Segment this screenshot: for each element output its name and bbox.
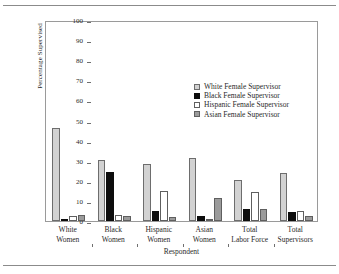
y-axis-tick-label: 70 (76, 77, 83, 85)
y-axis-tick-mark (87, 82, 91, 83)
bar (214, 198, 221, 221)
legend-item: Hispanic Female Supervisor (194, 100, 289, 109)
y-axis-tick-mark (87, 203, 91, 204)
y-axis-tick-mark (87, 102, 91, 103)
legend-item-label: White Female Supervisor (204, 82, 281, 91)
bar (152, 211, 159, 221)
bar (189, 158, 196, 221)
bar (280, 173, 287, 221)
y-axis-tick-mark (87, 42, 91, 43)
bar (123, 216, 130, 221)
bar (160, 191, 167, 221)
bar (243, 209, 250, 221)
y-axis-tick-mark (87, 223, 91, 224)
figure-top-rule (3, 5, 336, 6)
bar (143, 164, 150, 221)
bar (260, 209, 267, 221)
legend-item-label: Black Female Supervisor (204, 91, 280, 100)
y-axis-tick-mark (87, 163, 91, 164)
figure: Percentage Supervised 010203040506070809… (0, 0, 339, 274)
legend-swatch-icon (194, 102, 200, 108)
y-axis-tick-label: 90 (76, 37, 83, 45)
y-axis-title: Percentage Supervised (36, 0, 44, 126)
y-axis-tick-mark (87, 22, 91, 23)
x-axis-title: Respondent (45, 247, 318, 256)
y-axis-tick-label: 80 (76, 57, 83, 65)
chart-legend: White Female SupervisorBlack Female Supe… (194, 82, 289, 119)
y-axis-tick-mark (87, 183, 91, 184)
x-axis-group-label-line1: Total (288, 225, 303, 234)
bar (169, 217, 176, 221)
y-axis-tick-label: 50 (76, 118, 83, 126)
legend-item: Asian Female Supervisor (194, 110, 289, 119)
legend-swatch-icon (194, 84, 200, 90)
bar (197, 216, 204, 221)
bar (288, 212, 295, 221)
legend-item: White Female Supervisor (194, 82, 289, 91)
y-axis-tick-mark (87, 123, 91, 124)
legend-swatch-icon (194, 93, 200, 99)
bar (78, 215, 85, 221)
bar (305, 216, 312, 221)
x-axis-group-label-line2: Supervisors (255, 235, 335, 245)
x-axis-group-label: TotalSupervisors (255, 225, 335, 244)
y-axis-tick-label: 60 (76, 97, 83, 105)
legend-item-label: Asian Female Supervisor (204, 110, 280, 119)
y-axis-tick-mark (87, 143, 91, 144)
y-axis-tick-label: 100 (73, 17, 84, 25)
bar (206, 219, 213, 221)
plot-frame: 0102030405060708090100 White Female Supe… (45, 21, 318, 222)
legend-swatch-icon (194, 111, 200, 117)
bar (297, 211, 304, 221)
bar (106, 172, 113, 221)
bar (69, 216, 76, 221)
legend-item: Black Female Supervisor (194, 91, 289, 100)
bar (61, 219, 68, 221)
y-axis-tick-label: 40 (76, 138, 83, 146)
bar (251, 192, 258, 221)
y-axis-tick-label: 10 (76, 198, 83, 206)
y-axis-tick-label: 20 (76, 178, 83, 186)
bar (98, 160, 105, 221)
figure-bottom-rule (3, 265, 336, 266)
legend-item-label: Hispanic Female Supervisor (204, 100, 289, 109)
y-axis-tick-mark (87, 62, 91, 63)
bar (234, 180, 241, 221)
bar (52, 128, 59, 221)
y-axis-tick-label: 30 (76, 158, 83, 166)
bar (115, 215, 122, 221)
plot-area: 0102030405060708090100 White Female Supe… (46, 22, 317, 221)
